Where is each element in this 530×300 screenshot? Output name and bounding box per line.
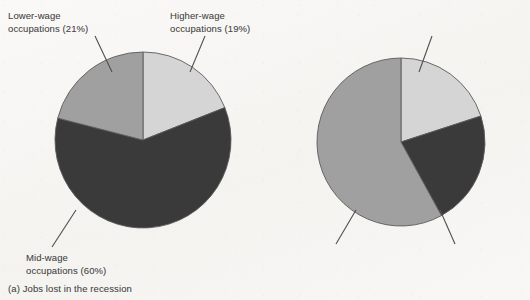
pie-chart-figure: Lower-wage occupations (21%) Higher-wage… (0, 0, 530, 300)
panel-a-caption: (a) Jobs lost in the recession (8, 283, 132, 295)
pie-a-label-mid-wage: Mid-wage occupations (60%) (26, 252, 106, 277)
panel-jobs-lost: Lower-wage occupations (21%) Higher-wage… (0, 0, 265, 300)
pie-a-label-higher-wage: Higher-wage occupations (19%) (170, 10, 250, 35)
pie-a-label-lower-wage: Lower-wage occupations (21%) (8, 10, 88, 35)
panel-jobs-gained: Higher-wage occupations (20%) Lower-wage… (265, 0, 530, 300)
